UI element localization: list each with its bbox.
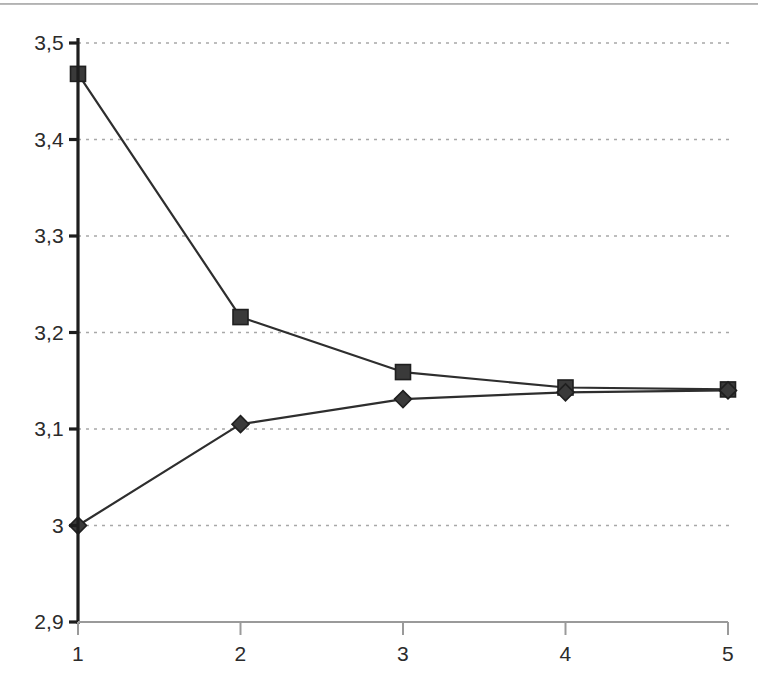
y-tick-label: 3,3 — [0, 224, 64, 248]
y-tick-label: 3,1 — [0, 417, 64, 441]
data-point-diamond — [232, 416, 249, 433]
x-tick-label: 1 — [72, 642, 84, 666]
y-tick-label: 3,4 — [0, 128, 64, 152]
series-line-lower-series — [78, 390, 728, 525]
chart-figure: 3,53,43,33,23,132,9 12345 — [0, 0, 758, 688]
x-tick-label: 5 — [722, 642, 734, 666]
series-line-group — [78, 74, 728, 526]
data-point-diamond — [395, 391, 412, 408]
x-tick-label: 3 — [397, 642, 409, 666]
y-tick-label: 3,2 — [0, 321, 64, 345]
series-line-upper-series — [78, 74, 728, 390]
data-point-square — [396, 365, 411, 380]
series-marker-group — [70, 66, 737, 534]
x-tick-label: 4 — [560, 642, 572, 666]
axis-group — [69, 38, 728, 635]
data-point-square — [233, 310, 248, 325]
y-tick-label: 3 — [0, 514, 64, 538]
y-tick-label: 2,9 — [0, 610, 64, 634]
y-tick-label: 3,5 — [0, 31, 64, 55]
line-chart-plot — [0, 0, 758, 688]
x-tick-label: 2 — [235, 642, 247, 666]
gridline-group — [78, 43, 731, 526]
